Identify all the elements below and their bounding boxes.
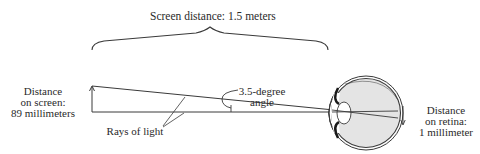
angle-label: 3.5-degree angle	[232, 86, 292, 108]
visual-angle-diagram: Screen distance: 1.5 meters Distance on …	[0, 0, 480, 154]
diagram-title: Screen distance: 1.5 meters	[150, 11, 270, 22]
diagram-graphics	[0, 0, 480, 154]
screen-distance-label: Distance on screen: 89 millimeters	[2, 86, 84, 119]
rays-leader-bottom	[163, 113, 184, 127]
ray-top	[92, 86, 344, 111]
angle-label-line-2: angle	[232, 97, 292, 108]
distance-brace	[92, 27, 328, 50]
retina-distance-label: Distance on retina: 1 millimeter	[413, 105, 479, 138]
retina-label-line-3: 1 millimeter	[413, 127, 479, 138]
screen-label-line-3: 89 millimeters	[2, 108, 84, 119]
rays-of-light-label: Rays of light	[104, 126, 166, 137]
eye-illustration	[329, 76, 404, 150]
